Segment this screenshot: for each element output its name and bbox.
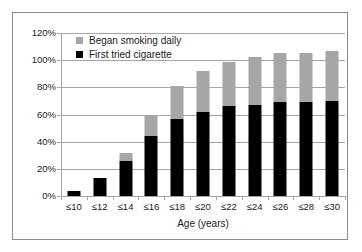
y-tick-label: 80% — [37, 82, 56, 92]
bar-stack — [248, 57, 261, 196]
chart-legend: Began smoking dailyFirst tried cigarette — [76, 34, 216, 62]
bar-group — [242, 33, 268, 196]
bar-stack — [300, 53, 313, 196]
bar-stack — [196, 71, 209, 196]
bar-stack — [274, 53, 287, 196]
x-axis-title: Age (years) — [61, 218, 345, 229]
bar-segment-began-smoking-daily — [326, 51, 339, 101]
bar-stack — [93, 178, 106, 196]
bar-segment-first-tried-cigarette — [326, 101, 339, 196]
bar-stack — [145, 115, 158, 196]
bar-segment-began-smoking-daily — [222, 62, 235, 107]
bar-segment-began-smoking-daily — [119, 153, 132, 161]
x-tick-label: ≤16 — [138, 201, 164, 213]
bar-segment-first-tried-cigarette — [248, 105, 261, 196]
bar-segment-first-tried-cigarette — [196, 112, 209, 196]
y-tick-label: 20% — [37, 164, 56, 174]
bar-group — [293, 33, 319, 196]
x-tick-label: ≤24 — [242, 201, 268, 213]
bar-segment-began-smoking-daily — [145, 115, 158, 137]
bar-segment-began-smoking-daily — [196, 71, 209, 112]
bar-segment-began-smoking-daily — [248, 57, 261, 105]
y-tick-label: 0% — [42, 191, 56, 201]
bar-group — [319, 33, 345, 196]
x-axis-tick-labels: ≤10≤12≤14≤16≤18≤20≤22≤24≤26≤28≤30 — [61, 201, 345, 215]
legend-label: First tried cigarette — [89, 49, 172, 60]
legend-label: Began smoking daily — [89, 35, 181, 46]
bar-group — [216, 33, 242, 196]
x-tick-label: ≤14 — [113, 201, 139, 213]
y-tick-label: 100% — [32, 55, 56, 65]
bar-stack — [326, 51, 339, 196]
bar-segment-first-tried-cigarette — [93, 178, 106, 196]
bar-segment-first-tried-cigarette — [119, 161, 132, 196]
chart-figure: 120%100%80%60%40%20%0% ≤10≤12≤14≤16≤18≤2… — [0, 0, 362, 252]
y-tick-label: 120% — [32, 28, 56, 38]
bar-segment-first-tried-cigarette — [222, 106, 235, 196]
bar-stack — [171, 86, 184, 196]
gray-square-icon — [76, 37, 83, 44]
y-tick-label: 40% — [37, 137, 56, 147]
bar-stack — [119, 153, 132, 196]
legend-item: First tried cigarette — [76, 48, 216, 61]
legend-item: Began smoking daily — [76, 34, 216, 47]
x-tick-label: ≤12 — [87, 201, 113, 213]
x-tick-label: ≤30 — [319, 201, 345, 213]
bar-group — [268, 33, 294, 196]
x-tick-label: ≤28 — [293, 201, 319, 213]
bar-segment-first-tried-cigarette — [145, 136, 158, 196]
bar-segment-first-tried-cigarette — [300, 102, 313, 196]
bar-segment-first-tried-cigarette — [171, 119, 184, 196]
x-tick-label: ≤22 — [216, 201, 242, 213]
x-tick-label: ≤26 — [268, 201, 294, 213]
bar-segment-began-smoking-daily — [274, 53, 287, 102]
x-axis-line — [61, 196, 345, 197]
x-axis-tick — [345, 196, 346, 200]
bar-segment-first-tried-cigarette — [274, 102, 287, 196]
bar-segment-began-smoking-daily — [300, 53, 313, 102]
x-tick-label: ≤20 — [190, 201, 216, 213]
x-tick-label: ≤18 — [164, 201, 190, 213]
bar-stack — [222, 62, 235, 196]
y-axis-tick-labels: 120%100%80%60%40%20%0% — [18, 33, 56, 196]
x-tick-label: ≤10 — [61, 201, 87, 213]
black-square-icon — [76, 51, 83, 58]
bar-segment-began-smoking-daily — [171, 86, 184, 119]
y-tick-label: 60% — [37, 110, 56, 120]
